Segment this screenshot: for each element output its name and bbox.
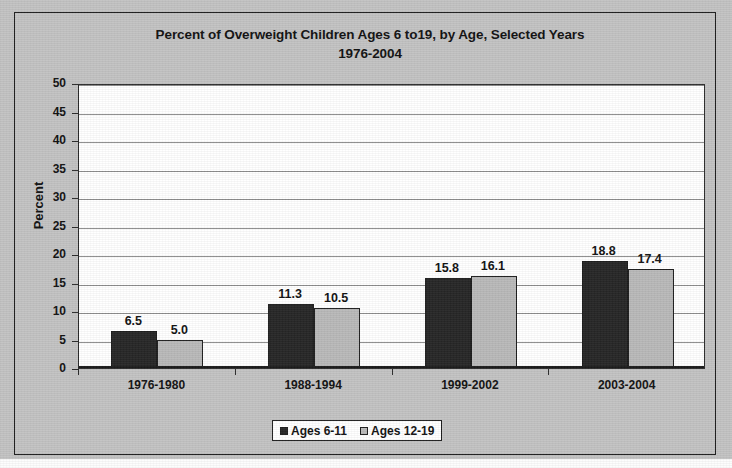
y-axis-tick-mark: [72, 227, 79, 228]
gridline: [79, 171, 704, 172]
x-axis-tick-mark: [78, 369, 79, 375]
y-axis-tick-mark: [72, 312, 79, 313]
y-axis-tick-mark: [72, 284, 79, 285]
gridline: [79, 199, 704, 200]
legend-entry: Ages 6-11: [280, 424, 347, 438]
chart-title-line-2: 1976-2004: [60, 44, 680, 63]
y-axis-tick-mark: [72, 255, 79, 256]
bar: [582, 261, 628, 368]
y-axis-tick-mark: [72, 170, 79, 171]
bar: [314, 308, 360, 368]
y-axis-tick-label: 35: [30, 162, 66, 176]
bar-value-label: 10.5: [306, 291, 366, 305]
x-axis-tick-mark: [548, 369, 549, 375]
y-axis-tick-label: 15: [30, 276, 66, 290]
gridline: [79, 228, 704, 229]
legend-label: Ages 6-11: [291, 424, 347, 438]
y-axis-tick-label: 30: [30, 190, 66, 204]
x-axis-tick-mark: [235, 369, 236, 375]
legend-swatch-icon: [360, 427, 368, 435]
x-axis-tick-label: 1976-1980: [76, 378, 236, 392]
bar: [268, 304, 314, 368]
chart-title-line-1: Percent of Overweight Children Ages 6 to…: [60, 25, 680, 44]
gridline: [79, 85, 704, 86]
bar-value-label: 16.1: [463, 259, 523, 273]
y-axis-tick-label: 5: [30, 333, 66, 347]
legend-label: Ages 12-19: [371, 424, 434, 438]
y-axis-tick-mark: [72, 84, 79, 85]
gridline: [79, 114, 704, 115]
y-axis-tick-mark: [72, 141, 79, 142]
bar: [425, 278, 471, 368]
y-axis-tick-label: 20: [30, 247, 66, 261]
bar: [157, 340, 203, 369]
x-axis-tick-label: 1988-1994: [233, 378, 393, 392]
y-axis-tick-mark: [72, 113, 79, 114]
x-axis-tick-label: 2003-2004: [547, 378, 707, 392]
y-axis-tick-label: 50: [30, 76, 66, 90]
y-axis-tick-label: 40: [30, 133, 66, 147]
bar: [111, 331, 157, 368]
y-axis-tick-label: 45: [30, 105, 66, 119]
chart-screenshot: Percent of Overweight Children Ages 6 to…: [0, 0, 732, 468]
y-axis-tick-mark: [72, 341, 79, 342]
y-axis-tick-label: 25: [30, 219, 66, 233]
y-axis-tick-label: 0: [30, 361, 66, 375]
chart-title: Percent of Overweight Children Ages 6 to…: [60, 25, 680, 63]
axis-zero-line: [79, 366, 704, 368]
bar-value-label: 17.4: [620, 252, 680, 266]
gridline: [79, 142, 704, 143]
legend-swatch-icon: [280, 427, 288, 435]
y-axis-tick-label: 10: [30, 304, 66, 318]
bar: [471, 276, 517, 368]
page-bottom-margin: [0, 459, 732, 468]
chart-legend: Ages 6-11Ages 12-19: [272, 420, 442, 441]
bar: [628, 269, 674, 368]
y-axis-tick-mark: [72, 198, 79, 199]
x-axis-tick-mark: [392, 369, 393, 375]
bar-value-label: 5.0: [149, 323, 209, 337]
x-axis-tick-label: 1999-2002: [390, 378, 550, 392]
legend-entry: Ages 12-19: [360, 424, 434, 438]
